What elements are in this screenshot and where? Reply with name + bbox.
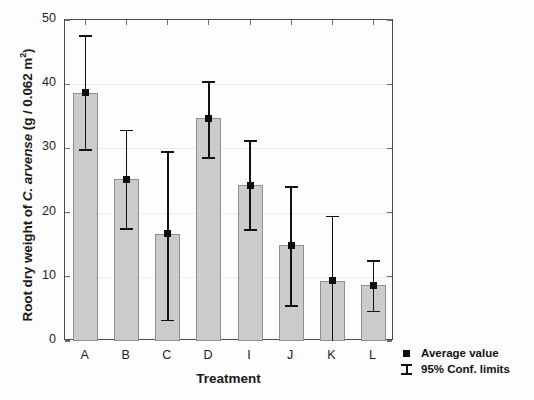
- legend-item-conf-limits: 95% Conf. limits: [399, 361, 531, 377]
- error-bar-cap-lower: [161, 320, 174, 322]
- error-bar-cap-lower: [367, 311, 380, 313]
- y-axis-tick-label: 20: [30, 204, 56, 218]
- x-axis-tick-top: [291, 20, 292, 25]
- mean-value-marker: [288, 242, 295, 249]
- y-axis-tick-label: 10: [30, 268, 56, 282]
- mean-value-marker: [164, 230, 171, 237]
- error-bar-cap-lower: [202, 157, 215, 159]
- error-bar-cap-upper: [326, 216, 339, 218]
- x-axis-tick-label: D: [188, 348, 228, 362]
- x-axis-tick-top: [373, 20, 374, 25]
- error-bar-cap-lower: [120, 228, 133, 230]
- y-axis-tick-right: [387, 340, 392, 341]
- y-axis-title-tail: ): [20, 49, 35, 53]
- x-axis-title: Treatment: [64, 371, 393, 386]
- chart-legend: Average value 95% Conf. limits: [399, 345, 531, 377]
- y-axis-tick: [65, 148, 70, 149]
- y-axis-tick: [65, 19, 70, 20]
- y-axis-tick-label: 50: [30, 11, 56, 25]
- error-bar-cap-upper: [202, 81, 215, 83]
- legend-label-conf-limits: 95% Conf. limits: [419, 363, 510, 375]
- mean-value-marker: [82, 89, 89, 96]
- i-beam-error-bar-icon: [399, 362, 415, 376]
- y-axis-tick: [65, 212, 70, 213]
- y-axis-tick-label: 0: [30, 332, 56, 346]
- y-axis-title-text-after: (g / 0.062 m: [20, 58, 35, 134]
- x-axis-tick-top: [167, 20, 168, 25]
- x-axis-tick-top: [208, 20, 209, 25]
- mean-value-marker: [247, 182, 254, 189]
- y-axis-tick-label: 30: [30, 139, 56, 153]
- error-bar-cap-lower: [285, 305, 298, 307]
- y-axis-tick-right: [387, 148, 392, 149]
- y-axis-title-text-before: Root dry weight of: [20, 201, 35, 321]
- y-axis-title-superscript: 2: [18, 53, 28, 58]
- error-bar-cap-lower: [79, 149, 92, 151]
- y-axis-tick-label: 40: [30, 75, 56, 89]
- y-axis-tick-right: [387, 19, 392, 20]
- y-axis-tick-right: [387, 212, 392, 213]
- mean-value-marker: [205, 115, 212, 122]
- x-axis-tick-label: I: [229, 348, 269, 362]
- x-axis-tick-label: C: [147, 348, 187, 362]
- chart-figure: Root dry weight of C. arvense (g / 0.062…: [0, 0, 534, 400]
- y-axis-tick-right: [387, 276, 392, 277]
- x-axis-tick-label: K: [311, 348, 351, 362]
- x-axis-tick-label: J: [270, 348, 310, 362]
- y-axis-tick: [65, 276, 70, 277]
- y-axis-title: Root dry weight of C. arvense (g / 0.062…: [10, 15, 36, 355]
- y-axis-tick: [65, 84, 70, 85]
- x-axis-tick-label: L: [352, 348, 392, 362]
- error-bar-cap-lower: [244, 229, 257, 231]
- error-bar-cap-upper: [161, 151, 174, 153]
- error-bar-cap-upper: [79, 35, 92, 37]
- error-bar-cap-upper: [367, 260, 380, 262]
- error-bar-cap-upper: [120, 130, 133, 132]
- gridline: [65, 84, 392, 85]
- x-axis-tick-label: B: [106, 348, 146, 362]
- x-axis-tick-top: [126, 20, 127, 25]
- x-axis-tick-top: [332, 20, 333, 25]
- filled-square-marker-icon: [399, 346, 415, 360]
- error-bar-cap-upper: [244, 140, 257, 142]
- mean-value-marker: [329, 277, 336, 284]
- x-axis-tick-label: A: [65, 348, 105, 362]
- plot-area: [64, 19, 393, 340]
- x-axis-tick-top: [85, 20, 86, 25]
- x-axis-tick-top: [250, 20, 251, 25]
- y-axis-tick-right: [387, 84, 392, 85]
- legend-item-average-value: Average value: [399, 345, 531, 361]
- gridline: [65, 148, 392, 149]
- error-bar-cap-upper: [285, 186, 298, 188]
- y-axis-tick: [65, 340, 70, 341]
- legend-label-average-value: Average value: [419, 347, 499, 359]
- mean-value-marker: [123, 176, 130, 183]
- mean-value-marker: [370, 282, 377, 289]
